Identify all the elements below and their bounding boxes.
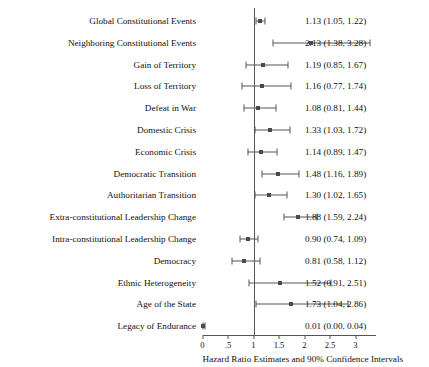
ci-lower-cap xyxy=(240,236,241,243)
confidence-interval-bar xyxy=(232,260,260,261)
ci-upper-cap xyxy=(291,83,292,90)
category-label: Defeat in War xyxy=(0,103,196,113)
point-estimate-marker xyxy=(261,63,265,67)
point-estimate-marker xyxy=(268,128,272,132)
ci-upper-cap xyxy=(258,236,259,243)
point-estimate-marker xyxy=(278,281,282,285)
ci-upper-cap xyxy=(290,127,291,134)
category-label: Global Constitutional Events xyxy=(0,16,196,26)
estimate-value: 2.13 (1.38, 3.28) xyxy=(305,38,425,48)
x-axis-tick xyxy=(304,335,305,339)
x-axis-tick xyxy=(253,335,254,339)
forest-plot: Global Constitutional EventsNeighboring … xyxy=(0,0,429,367)
category-label: Neighboring Constitutional Events xyxy=(0,38,196,48)
estimate-value: 1.16 (0.77, 1.74) xyxy=(305,81,425,91)
confidence-interval-bar xyxy=(255,130,290,131)
estimate-value: 1.33 (1.03, 1.72) xyxy=(305,125,425,135)
ci-lower-cap xyxy=(283,214,284,221)
category-label: Age of the State xyxy=(0,299,196,309)
category-label: Gain of Territory xyxy=(0,60,196,70)
ci-upper-cap xyxy=(298,170,299,177)
x-axis-title: Hazard Ratio Estimates and 90% Confidenc… xyxy=(203,354,376,364)
ci-lower-cap xyxy=(245,61,246,68)
category-label: Economic Crisis xyxy=(0,147,196,157)
point-estimate-marker xyxy=(258,19,262,23)
estimate-value: 1.14 (0.89, 1.47) xyxy=(305,147,425,157)
estimate-value: 1.19 (0.85, 1.67) xyxy=(305,60,425,70)
ci-lower-cap xyxy=(247,148,248,155)
estimate-value: 1.13 (1.05, 1.22) xyxy=(305,16,425,26)
ci-lower-cap xyxy=(255,301,256,308)
ci-lower-cap xyxy=(232,257,233,264)
reference-line xyxy=(254,8,255,335)
category-label: Legacy of Endurance xyxy=(0,321,196,331)
category-label: Intra-constitutional Leadership Change xyxy=(0,234,196,244)
x-axis-tick-label: 1.5 xyxy=(274,341,285,350)
x-axis-tick-label: 0 xyxy=(200,341,204,350)
confidence-interval-bar xyxy=(246,64,288,65)
category-label: Authoritarian Transition xyxy=(0,190,196,200)
estimate-value: 1.08 (0.81, 1.44) xyxy=(305,103,425,113)
estimate-value: 0.81 (0.58, 1.12) xyxy=(305,256,425,266)
estimate-value: 1.30 (1.02, 1.65) xyxy=(305,190,425,200)
category-label: Extra-constitutional Leadership Change xyxy=(0,212,196,222)
ci-lower-cap xyxy=(255,127,256,134)
estimate-value: 0.01 (0.00, 0.04) xyxy=(305,321,425,331)
ci-lower-cap xyxy=(256,18,257,25)
confidence-interval-bar xyxy=(262,173,299,174)
x-axis-tick xyxy=(355,335,356,339)
estimate-value: 1.48 (1.16, 1.89) xyxy=(305,169,425,179)
category-label: Ethnic Heterogeneity xyxy=(0,278,196,288)
point-estimate-marker xyxy=(276,172,280,176)
category-label: Domestic Crisis xyxy=(0,125,196,135)
ci-upper-cap xyxy=(286,192,287,199)
confidence-interval-bar xyxy=(248,151,278,152)
point-estimate-marker xyxy=(296,215,300,219)
point-estimate-marker xyxy=(242,259,246,263)
point-estimate-marker xyxy=(201,324,205,328)
x-axis-tick xyxy=(330,335,331,339)
point-estimate-marker xyxy=(256,106,260,110)
ci-lower-cap xyxy=(261,170,262,177)
point-estimate-marker xyxy=(259,150,263,154)
ci-upper-cap xyxy=(264,18,265,25)
estimate-value: 0.90 (0.74, 1.09) xyxy=(305,234,425,244)
confidence-interval-bar xyxy=(242,86,291,87)
category-label: Democratic Transition xyxy=(0,169,196,179)
confidence-interval-bar xyxy=(244,108,276,109)
x-axis-tick xyxy=(279,335,280,339)
ci-lower-cap xyxy=(243,105,244,112)
x-axis-tick-label: .5 xyxy=(225,341,231,350)
point-estimate-marker xyxy=(260,84,264,88)
category-label: Democracy xyxy=(0,256,196,266)
x-axis-tick xyxy=(228,335,229,339)
point-estimate-marker xyxy=(246,237,250,241)
ci-lower-cap xyxy=(241,83,242,90)
ci-upper-cap xyxy=(259,257,260,264)
point-estimate-marker xyxy=(267,193,271,197)
x-axis-tick-label: 1 xyxy=(251,341,255,350)
estimate-value: 1.52 (0.91, 2.51) xyxy=(305,278,425,288)
x-axis-line xyxy=(203,335,376,336)
x-axis-tick xyxy=(202,335,203,339)
category-label: Loss of Territory xyxy=(0,81,196,91)
x-axis-tick-label: 3 xyxy=(353,341,357,350)
ci-lower-cap xyxy=(248,279,249,286)
ci-upper-cap xyxy=(277,148,278,155)
estimate-value: 1.73 (1.04, 2.86) xyxy=(305,299,425,309)
x-axis-tick-label: 2.5 xyxy=(325,341,336,350)
ci-upper-cap xyxy=(287,61,288,68)
point-estimate-marker xyxy=(289,302,293,306)
ci-upper-cap xyxy=(275,105,276,112)
estimate-value: 1.88 (1.59, 2.24) xyxy=(305,212,425,222)
x-axis-tick-label: 2 xyxy=(302,341,306,350)
ci-lower-cap xyxy=(272,39,273,46)
